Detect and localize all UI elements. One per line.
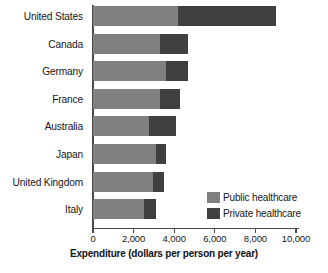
bar-row-united-states (0, 6, 328, 26)
bar-row-japan (0, 144, 328, 164)
legend-item-private: Private healthcare (207, 206, 301, 221)
x-tick-label-0: 0 (90, 233, 95, 244)
x-tick-0 (92, 228, 93, 233)
bar-row-france (0, 89, 328, 109)
x-tick-label-6000: 6,000 (203, 233, 226, 244)
bar-segment-public (93, 172, 153, 192)
x-tick-label-4000: 4,000 (163, 233, 186, 244)
bar-segment-public (93, 144, 156, 164)
bar-segment-private (153, 172, 164, 192)
bar-row-australia (0, 116, 328, 136)
bar-row-germany (0, 61, 328, 81)
x-tick-4000 (174, 228, 175, 233)
bar-segment-public (93, 89, 160, 109)
bar-segment-private (160, 34, 188, 54)
x-tick-8000 (255, 228, 256, 233)
bar-segment-public (93, 61, 166, 81)
bar-row-united-kingdom (0, 172, 328, 192)
bar-segment-public (93, 116, 149, 136)
bar-segment-private (178, 6, 275, 26)
x-tick-label-8000: 8,000 (244, 233, 267, 244)
bar-segment-private (144, 199, 156, 219)
legend-label-public: Public healthcare (223, 192, 297, 203)
bar-segment-private (160, 89, 180, 109)
bar-segment-public (93, 6, 178, 26)
legend-label-private: Private healthcare (223, 208, 301, 219)
bar-segment-private (166, 61, 188, 81)
bar-segment-public (93, 34, 160, 54)
bar-segment-private (149, 116, 176, 136)
x-tick-label-10000: 10,000 (282, 233, 310, 244)
legend-item-public: Public healthcare (207, 190, 301, 205)
x-axis-title: Expenditure (dollars per person per year… (0, 248, 328, 259)
stacked-bar-chart: 02,0004,0006,0008,00010,000 United State… (0, 0, 328, 273)
legend-swatch-private-icon (207, 208, 220, 219)
bar-segment-public (93, 199, 144, 219)
x-tick-6000 (214, 228, 215, 233)
bar-segment-private (156, 144, 166, 164)
x-tick-2000 (133, 228, 134, 233)
bar-row-canada (0, 34, 328, 54)
legend-swatch-public-icon (207, 192, 220, 203)
x-axis-line (92, 228, 299, 230)
x-tick-label-2000: 2,000 (122, 233, 145, 244)
x-tick-10000 (295, 228, 296, 233)
chart-legend: Public healthcare Private healthcare (207, 190, 301, 222)
